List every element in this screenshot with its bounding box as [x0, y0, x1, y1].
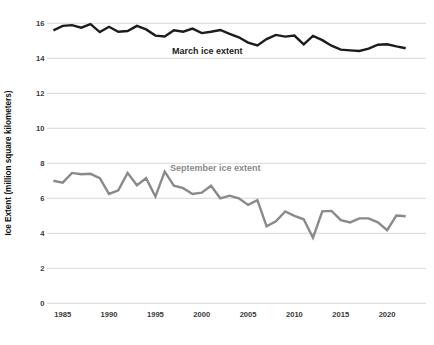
x-tick-label-1990: 1990	[101, 310, 118, 319]
x-tick-label-2005: 2005	[240, 310, 258, 319]
x-axis-tick-labels: 19851990199520002005201020152020	[54, 310, 395, 319]
y-tick-label-2: 2	[40, 264, 44, 273]
x-tick-label-2020: 2020	[379, 310, 396, 319]
x-tick-label-1985: 1985	[54, 310, 72, 319]
y-axis-title: Ice Extent (million square kilometers)	[4, 90, 13, 235]
x-tick-label-1995: 1995	[147, 310, 165, 319]
y-tick-label-16: 16	[36, 19, 44, 28]
september-series-label: September ice extent	[170, 163, 261, 173]
x-tick-label-2000: 2000	[193, 310, 210, 319]
march-series-label: March ice extent	[172, 46, 243, 56]
x-tick-label-2010: 2010	[286, 310, 303, 319]
y-tick-label-14: 14	[36, 54, 45, 63]
y-tick-label-6: 6	[40, 194, 44, 203]
y-tick-label-0: 0	[40, 299, 44, 308]
y-tick-label-8: 8	[40, 159, 44, 168]
y-tick-label-10: 10	[36, 124, 44, 133]
ice-extent-chart: 0246810121416 19851990199520002005201020…	[0, 0, 434, 345]
x-tick-label-2015: 2015	[332, 310, 350, 319]
y-tick-label-12: 12	[36, 89, 44, 98]
y-axis-tick-labels: 0246810121416	[36, 19, 45, 308]
chart-canvas: 0246810121416 19851990199520002005201020…	[0, 0, 434, 345]
september-ice-extent-line	[53, 172, 405, 238]
y-tick-label-4: 4	[40, 229, 45, 238]
